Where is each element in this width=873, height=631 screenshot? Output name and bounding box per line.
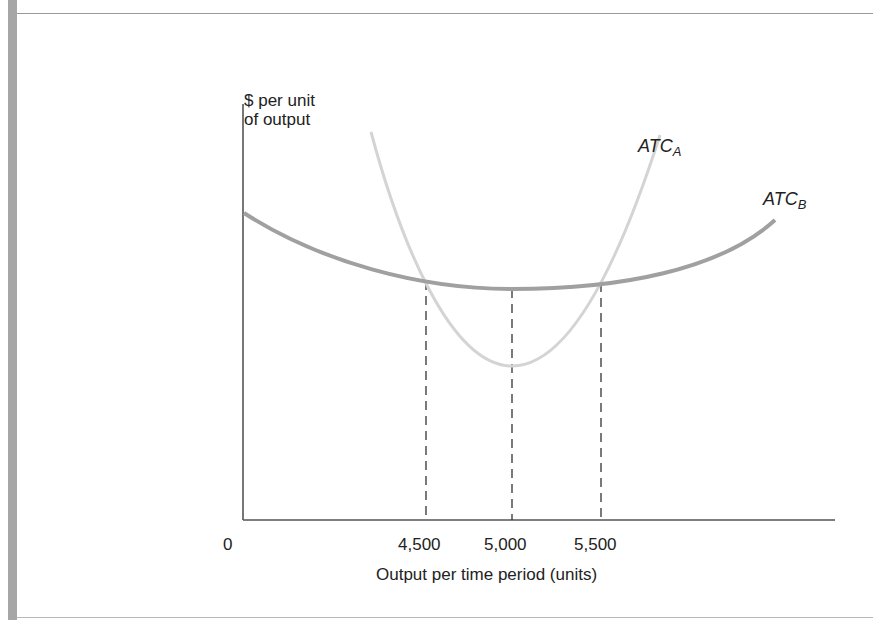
x-tick-4500: 4,500 (398, 535, 441, 555)
atc-b-label: ATCB (763, 189, 806, 212)
atc-b-label-main: ATC (763, 189, 798, 209)
atc-a-label: ATCA (638, 136, 681, 159)
y-axis-label-line2: of output (244, 110, 315, 129)
atc-b-curve (244, 213, 775, 289)
x-tick-5000: 5,000 (484, 535, 527, 555)
x-tick-5500: 5,500 (574, 535, 617, 555)
x-axis-label: Output per time period (units) (376, 565, 597, 585)
atc-a-label-main: ATC (638, 136, 673, 156)
y-axis-label: $ per unit of output (244, 91, 315, 129)
atc-b-label-sub: B (798, 197, 807, 212)
y-axis-label-line1: $ per unit (244, 91, 315, 110)
atc-a-label-sub: A (673, 144, 682, 159)
x-tick-0: 0 (223, 535, 232, 555)
atc-a-curve (371, 132, 660, 366)
